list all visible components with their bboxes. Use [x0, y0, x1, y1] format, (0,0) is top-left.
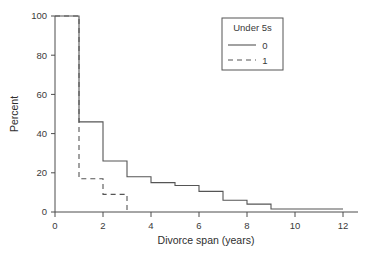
x-tick-label: 6 [196, 220, 201, 231]
x-tick-label: 10 [290, 220, 301, 231]
y-tick-label: 100 [31, 10, 47, 21]
y-tick-label: 80 [36, 50, 47, 61]
y-tick-label: 60 [36, 89, 47, 100]
y-tick-label: 40 [36, 128, 47, 139]
legend-title: Under 5s [233, 22, 272, 33]
x-tick-label: 0 [52, 220, 57, 231]
divorce-span-survival-chart: 020406080100 Percent 024681012 Divorce s… [0, 0, 371, 267]
x-axis-title: Divorce span (years) [158, 234, 255, 246]
x-tick-label: 2 [100, 220, 105, 231]
chart-container: 020406080100 Percent 024681012 Divorce s… [0, 0, 371, 267]
x-tick-label: 8 [244, 220, 249, 231]
y-axis-title: Percent [8, 96, 20, 132]
y-tick-label: 20 [36, 167, 47, 178]
y-tick-label: 0 [42, 206, 47, 217]
legend-label-series-0: 0 [262, 40, 267, 51]
x-tick-label: 12 [338, 220, 349, 231]
x-tick-label: 4 [148, 220, 153, 231]
legend: Under 5s 0 1 [222, 18, 283, 70]
legend-label-series-1: 1 [262, 55, 267, 66]
